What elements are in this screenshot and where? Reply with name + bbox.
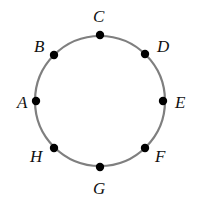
point-label-f: F [154,147,166,166]
point-e [159,97,167,105]
point-f [141,144,149,152]
point-label-b: B [34,37,45,56]
point-label-h: H [29,147,44,166]
point-label-c: C [93,7,105,26]
point-label-g: G [93,179,105,198]
point-label-d: D [156,37,170,56]
point-a [32,97,40,105]
point-label-e: E [174,93,186,112]
points-group: ABCDEFGH [16,7,186,198]
point-h [50,144,58,152]
circle-diagram: ABCDEFGH [0,0,202,205]
point-label-a: A [16,93,28,112]
point-b [50,51,58,59]
point-g [96,163,104,171]
point-c [96,31,104,39]
point-d [141,50,149,58]
